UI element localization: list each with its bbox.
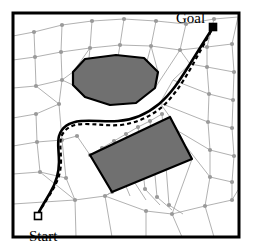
mesh-node [33,55,37,59]
mesh-node [230,198,234,202]
mesh-node [155,195,159,199]
mesh-node [124,132,128,136]
mesh-node [206,120,210,124]
mesh-node [160,112,164,116]
mesh-node [144,209,148,213]
mesh-node [205,45,209,49]
mesh-node [88,46,92,50]
mesh-node [60,23,64,27]
mesh-node [38,170,42,174]
mesh-node [32,30,36,34]
start-label: Start [29,228,58,244]
mesh-node [203,204,207,208]
mesh-node [34,112,38,116]
mesh-node [118,43,122,47]
mesh-node [59,50,63,54]
mesh-node [167,203,171,207]
mesh-node [57,102,61,106]
mesh-node [35,140,39,144]
goal-marker [210,24,217,31]
mesh-node [136,125,140,129]
mesh-node [154,19,158,23]
start-marker [35,213,42,220]
mesh-node [232,154,236,158]
mesh-node [73,198,77,202]
mesh-node [148,119,152,123]
mesh-node [230,126,234,130]
mesh-node [232,70,236,74]
mesh-node [103,194,107,198]
mesh-node [208,148,212,152]
mesh-node [143,187,147,191]
mesh-node [230,180,234,184]
mesh-node [170,212,174,216]
diagram-canvas: Goal Start [0,0,256,250]
mesh-node [178,48,182,52]
mesh-node [75,134,79,138]
mesh-node [231,98,235,102]
goal-label: Goal [176,10,205,26]
mesh-node [122,17,126,21]
mesh-node [90,19,94,23]
mesh-node [208,175,212,179]
mesh-node [34,84,38,88]
mesh-node [207,92,211,96]
mesh-node [149,44,153,48]
mesh-node [230,42,234,46]
mesh-node [64,176,68,180]
mesh-node [205,65,209,69]
path-planning-figure: Goal Start [0,0,256,250]
mesh-node [212,17,216,21]
mesh-node [60,78,64,82]
